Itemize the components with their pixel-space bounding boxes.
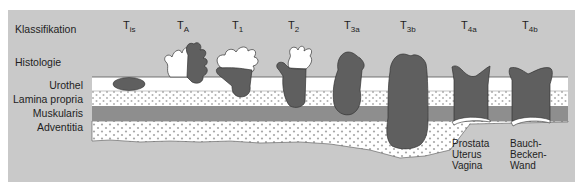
stage-t3a: T3a — [344, 19, 360, 34]
tumor-t3b — [387, 54, 428, 149]
stage-t4b: T4b — [522, 19, 538, 34]
label-classification: Klassifikation — [15, 23, 76, 35]
label-histology: Histologie — [15, 56, 61, 68]
stage-t2: T2 — [288, 19, 299, 34]
stage-t4a: T4a — [461, 19, 477, 34]
layer-muskularis — [92, 106, 568, 121]
label-adventitia: Adventitia — [9, 121, 83, 133]
tumor-ta — [165, 43, 208, 83]
label-urothel: Urothel — [9, 79, 83, 91]
layer-lamina-propria — [92, 91, 568, 106]
stage-t1: T1 — [232, 19, 243, 34]
tissue-layers — [92, 77, 568, 158]
stage-t3b: T3b — [400, 19, 416, 34]
tumor-t4b — [509, 67, 552, 126]
layer-urothel — [92, 77, 568, 91]
tumor-t3a — [333, 52, 364, 115]
stage-ta: TA — [177, 19, 189, 34]
label-lamina-propria: Lamina propria — [9, 93, 83, 105]
tumor-t4a — [452, 66, 490, 125]
organ-label-t4a: Prostata Uterus Vagina — [452, 138, 489, 171]
layer-adventitia — [92, 121, 568, 158]
label-muskularis: Muskularis — [9, 107, 83, 119]
organ-label-t4b: Bauch- Becken- Wand — [510, 138, 547, 171]
stage-tis: Tis — [123, 19, 136, 34]
tumor-tis — [113, 78, 145, 91]
